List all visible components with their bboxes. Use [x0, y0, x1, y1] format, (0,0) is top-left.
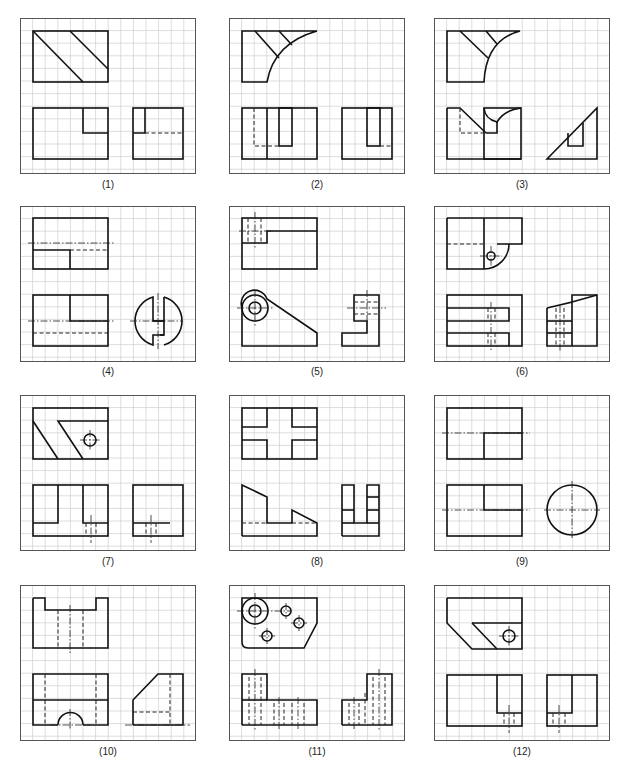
exercise-panel-11: [229, 585, 405, 741]
exercise-panel-3: [434, 18, 610, 174]
side-view: [342, 485, 379, 536]
drawing-3: [434, 18, 610, 174]
exercise-panel-4: [20, 206, 196, 362]
drawing-12: [434, 585, 610, 741]
exercise-panel-5: [229, 206, 405, 362]
side-view: [130, 293, 183, 349]
exercise-panel-2: [229, 18, 405, 174]
exercise-panel-9: [434, 395, 610, 551]
side-view: [547, 675, 597, 733]
front-view: [237, 290, 317, 346]
exercise-panel-1: [20, 18, 196, 174]
side-view: [342, 290, 386, 346]
exercise-panel-12: [434, 585, 610, 741]
front-view: [28, 295, 115, 346]
side-view: [133, 485, 183, 543]
front-view: [442, 485, 530, 536]
panel-label-10: (10): [20, 746, 196, 757]
side-view: [342, 669, 392, 730]
panel-label-1: (1): [20, 179, 196, 190]
panel-label-11: (11): [229, 746, 405, 757]
side-view: [544, 481, 600, 539]
drawing-11: [229, 585, 405, 741]
drawing-2: [229, 18, 405, 174]
top-view: [442, 408, 530, 459]
panel-label-7: (7): [20, 556, 196, 567]
exercise-panel-10: [20, 585, 196, 741]
drawing-7: [20, 395, 196, 551]
panel-label-4: (4): [20, 366, 196, 377]
panel-label-5: (5): [229, 366, 405, 377]
exercise-panel-6: [434, 206, 610, 362]
drawing-8: [229, 395, 405, 551]
panel-label-12: (12): [434, 746, 610, 757]
drawing-10: [20, 585, 196, 741]
panel-label-3: (3): [434, 179, 610, 190]
drawing-5: [229, 206, 405, 362]
side-view: [547, 108, 597, 159]
drawing-1: [20, 18, 196, 174]
panel-label-8: (8): [229, 556, 405, 567]
grid-lines: [434, 18, 610, 174]
drawing-6: [434, 206, 610, 362]
drawing-4: [20, 206, 196, 362]
side-view: [342, 108, 392, 159]
side-view: [125, 674, 190, 725]
panel-label-6: (6): [434, 366, 610, 377]
drawing-9: [434, 395, 610, 551]
side-view: [547, 295, 597, 352]
exercise-panel-8: [229, 395, 405, 551]
panel-label-2: (2): [229, 179, 405, 190]
panel-label-9: (9): [434, 556, 610, 567]
top-view: [447, 31, 520, 82]
top-view: [237, 593, 317, 648]
top-view: [239, 212, 317, 269]
exercise-panel-7: [20, 395, 196, 551]
side-view: [133, 108, 183, 159]
